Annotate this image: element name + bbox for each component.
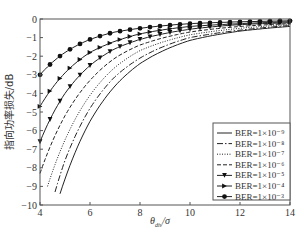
y-axis-label: 指向功率损失/dB: [3, 74, 15, 151]
legend-label: BER=1×10⁻⁹: [235, 128, 284, 138]
y-tick-label: −4: [26, 88, 37, 99]
y-tick-label: −8: [26, 162, 37, 173]
y-tick-label: −3: [26, 69, 37, 80]
legend-label: BER=1×10⁻⁴: [235, 181, 284, 191]
x-tick-label: 10: [185, 207, 195, 218]
legend-label: BER=1×10⁻³: [235, 192, 284, 202]
legend-label: BER=1×10⁻⁶: [235, 160, 284, 170]
y-tick-label: −2: [26, 51, 37, 62]
y-tick-label: −10: [21, 200, 37, 211]
x-tick-label: 4: [38, 207, 43, 218]
y-tick-label: −6: [26, 125, 37, 136]
y-tick-label: −9: [26, 181, 37, 192]
pointing-loss-chart: 0−1−2−3−4−5−6−7−8−9−10 468101214 指向功率损失/…: [0, 0, 304, 236]
x-axis-label: θdiv/σ: [150, 215, 171, 228]
x-tick-label: 12: [235, 207, 245, 218]
legend-label: BER=1×10⁻⁷: [235, 149, 284, 159]
legend: BER=1×10⁻⁹BER=1×10⁻⁸BER=1×10⁻⁷BER=1×10⁻⁶…: [213, 123, 290, 202]
y-tick-label: −5: [26, 107, 37, 118]
x-tick-label: 8: [138, 207, 143, 218]
x-tick-label: 6: [88, 207, 93, 218]
legend-label: BER=1×10⁻⁸: [235, 139, 284, 149]
y-tick-label: −7: [26, 144, 37, 155]
y-tick-label: 0: [32, 14, 37, 25]
y-tick-label: −1: [26, 32, 37, 43]
series-line: [38, 19, 293, 108]
x-tick-label: 14: [285, 207, 295, 218]
legend-label: BER=1×10⁻⁵: [235, 170, 284, 180]
